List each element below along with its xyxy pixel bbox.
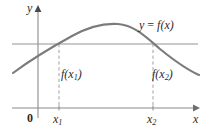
y-axis-label: y bbox=[27, 2, 32, 14]
x-axis-label: x bbox=[193, 113, 198, 125]
fx1-label-open: (x bbox=[64, 67, 73, 81]
curve-equation-label: y = f(x) bbox=[139, 19, 174, 31]
x2-tick-label: x2 bbox=[147, 113, 156, 127]
x2-tick-label-subscript: 2 bbox=[152, 118, 156, 127]
x-axis-arrowhead bbox=[193, 105, 200, 112]
x1-tick-label: x1 bbox=[53, 113, 62, 127]
curve-equation-equals: = bbox=[144, 18, 157, 32]
origin-label: 0 bbox=[27, 112, 33, 124]
y-axis-arrowhead bbox=[35, 5, 42, 12]
fx2-label: f(x2) bbox=[152, 68, 173, 82]
x1-tick-label-subscript: 1 bbox=[58, 118, 62, 127]
fx1-label-close: ) bbox=[78, 67, 82, 81]
function-graph-figure: y x 0 x1 x2 f(x1) f(x2) y = f(x) bbox=[0, 0, 209, 139]
fx2-label-close: ) bbox=[169, 67, 173, 81]
fx2-label-open: (x bbox=[155, 67, 164, 81]
curve-equation-arg: (x) bbox=[160, 18, 173, 32]
fx1-label: f(x1) bbox=[61, 68, 82, 82]
